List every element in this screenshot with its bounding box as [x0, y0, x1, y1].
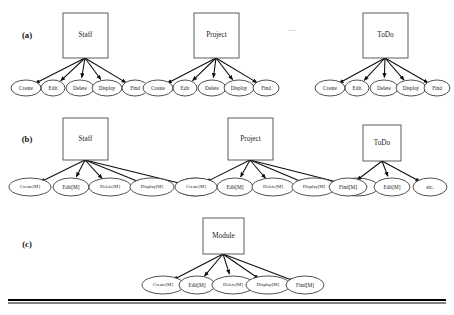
- ellipse-label: Create[M]: [186, 184, 206, 189]
- edge-project-cluster-a-3: [216, 58, 233, 80]
- ellipse-label: Edit[M]: [383, 184, 400, 190]
- edge-project-cluster-a-2: [213, 58, 216, 78]
- box-label-todo-b: ToDo: [374, 139, 391, 147]
- ellipse-label: Find: [261, 85, 271, 91]
- ellipse-label: Display: [231, 85, 248, 91]
- operation-node-find-m-c-4[interactable]: Find[M]: [286, 276, 324, 294]
- box-label-todo-a: ToDo: [377, 31, 394, 39]
- operation-node-edit-a-1[interactable]: Edit: [173, 80, 197, 96]
- edge-staff-cluster-a-4: [85, 58, 126, 83]
- operation-node-find-a-4[interactable]: Find: [424, 80, 450, 96]
- operation-node-delete-m-b-2[interactable]: Delete[M]: [89, 178, 131, 196]
- ellipse-label: Delete: [377, 85, 391, 91]
- project-cluster-a: ProjectCreateEditDeleteDisplayFind: [143, 13, 279, 96]
- operation-node-edit-a-1[interactable]: Edit: [345, 80, 369, 96]
- hierarchy-diagram: (a)StaffCreateEditDeleteDisplayFindProje…: [0, 0, 454, 315]
- edge-project-cluster-a-1: [193, 58, 216, 81]
- ellipse-label: Edit[M]: [188, 282, 205, 288]
- operation-node-create-a-0[interactable]: Create: [11, 80, 41, 96]
- module-cluster-c: ModuleCreate[M]Edit[M]Delete[M]Display[M…: [142, 218, 324, 294]
- ellipse-label: Edit[M]: [226, 184, 243, 190]
- edge-module-cluster-c-1: [204, 254, 223, 276]
- edge-module-cluster-c-3: [223, 254, 259, 278]
- ellipse-label: Find[M]: [296, 282, 314, 288]
- edge-project-cluster-a-4: [216, 58, 257, 83]
- ellipse-label: Delete: [73, 85, 87, 91]
- diagram-row-b: (b)StaffCreate[M]Edit[M]Delete[M]Display…: [9, 118, 447, 196]
- ellipse-label: Create: [151, 85, 165, 91]
- edge-module-cluster-c-2: [223, 254, 229, 274]
- operation-node-display-a-3[interactable]: Display: [224, 80, 254, 96]
- ellipse-label: Display: [403, 85, 420, 91]
- diagram-row-c: (c)ModuleCreate[M]Edit[M]Delete[M]Displa…: [22, 218, 324, 294]
- operation-node-create-a-0[interactable]: Create: [143, 80, 173, 96]
- ellipse-label: Display[M]: [141, 184, 164, 189]
- edge-staff-cluster-b-2: [85, 160, 102, 179]
- operation-node-edit-m-b-1[interactable]: Edit[M]: [217, 178, 253, 196]
- edge-todo-cluster-a-4: [385, 58, 428, 83]
- row-label-c: (c): [22, 239, 32, 249]
- todo-cluster-a: ToDoCreateEditDeleteDisplayFind: [315, 13, 450, 96]
- operation-node-find-m-b-0[interactable]: Find[M]: [329, 178, 367, 196]
- operation-node-display-m-c-3[interactable]: Display[M]: [246, 276, 290, 294]
- operation-node-display-a-3[interactable]: Display: [92, 80, 122, 96]
- edge-todo-cluster-a-2: [384, 58, 385, 78]
- ellipse-label: Create[M]: [20, 184, 40, 189]
- operation-node-edit-a-1[interactable]: Edit: [41, 80, 65, 96]
- edge-staff-cluster-a-3: [85, 58, 101, 80]
- operation-node-create-m-b-0[interactable]: Create[M]: [175, 178, 217, 196]
- ellipse-label: Delete[M]: [100, 184, 120, 189]
- edge-todo-cluster-a-3: [385, 58, 404, 80]
- diagram-row-a: (a)StaffCreateEditDeleteDisplayFindProje…: [11, 13, 450, 96]
- ellipse-label: Display[M]: [303, 184, 326, 189]
- operation-node-edit-m-b-1[interactable]: Edit[M]: [374, 178, 410, 196]
- ellipse-label: Create: [19, 85, 33, 91]
- ellipse-label: Display: [99, 85, 116, 91]
- operation-node-find-a-4[interactable]: Find: [253, 80, 279, 96]
- operation-node-etc-b-2[interactable]: etc.: [413, 178, 447, 196]
- operation-node-display-m-b-3[interactable]: Display[M]: [130, 178, 174, 196]
- operation-node-create-a-0[interactable]: Create: [315, 80, 345, 96]
- ellipse-label: Find: [432, 85, 442, 91]
- operation-node-display-a-3[interactable]: Display: [396, 80, 426, 96]
- row-label-a: (a): [22, 30, 32, 40]
- box-label-module-c: Module: [212, 232, 234, 240]
- ellipse-label: Edit: [353, 85, 362, 91]
- staff-cluster-a: StaffCreateEditDeleteDisplayFind: [11, 13, 148, 96]
- operation-node-edit-m-b-1[interactable]: Edit[M]: [53, 178, 89, 196]
- ellipse-label: Display[M]: [257, 282, 280, 287]
- edge-staff-cluster-a-0: [35, 58, 85, 83]
- row-label-b: (b): [22, 134, 33, 144]
- edge-todo-cluster-a-1: [364, 58, 385, 80]
- todo-cluster-b: ToDoFind[M]Edit[M]etc.: [329, 125, 447, 196]
- ellipse-label: Create: [323, 85, 337, 91]
- box-label-project-b: Project: [240, 135, 260, 143]
- edge-todo-cluster-b-0: [357, 161, 382, 180]
- operation-node-delete-a-2[interactable]: Delete: [66, 80, 94, 96]
- operation-node-edit-m-c-1[interactable]: Edit[M]: [179, 276, 215, 294]
- edge-todo-cluster-a-0: [339, 58, 385, 83]
- diagram-layer: (a)StaffCreateEditDeleteDisplayFindProje…: [8, 13, 450, 303]
- ellipse-label: Delete: [205, 85, 219, 91]
- figure-root: (a)StaffCreateEditDeleteDisplayFindProje…: [0, 0, 454, 315]
- ellipse-label: Create[M]: [153, 282, 173, 287]
- operation-node-delete-a-2[interactable]: Delete: [198, 80, 226, 96]
- operation-node-delete-m-b-2[interactable]: Delete[M]: [252, 178, 294, 196]
- operation-node-create-m-b-0[interactable]: Create[M]: [9, 178, 51, 196]
- bottom-rule: [8, 300, 446, 303]
- box-label-staff-a: Staff: [79, 31, 93, 39]
- operation-node-delete-a-2[interactable]: Delete: [370, 80, 398, 96]
- ellipse-label: Delete[M]: [263, 184, 283, 189]
- ellipse-label: Find: [130, 85, 140, 91]
- cluster-ellipsis-a: ...: [288, 24, 296, 33]
- ellipse-label: Find[M]: [339, 184, 357, 190]
- ellipse-label: Edit: [181, 85, 190, 91]
- ellipse-label: Edit: [49, 85, 58, 91]
- box-label-staff-b: Staff: [79, 135, 93, 143]
- edge-project-cluster-a-0: [167, 58, 216, 83]
- ellipse-label: Edit[M]: [62, 184, 79, 190]
- ellipse-label: etc.: [426, 184, 434, 190]
- operation-node-create-m-c-0[interactable]: Create[M]: [142, 276, 184, 294]
- ellipse-label: Delete[M]: [223, 282, 243, 287]
- box-label-project-a: Project: [206, 31, 226, 39]
